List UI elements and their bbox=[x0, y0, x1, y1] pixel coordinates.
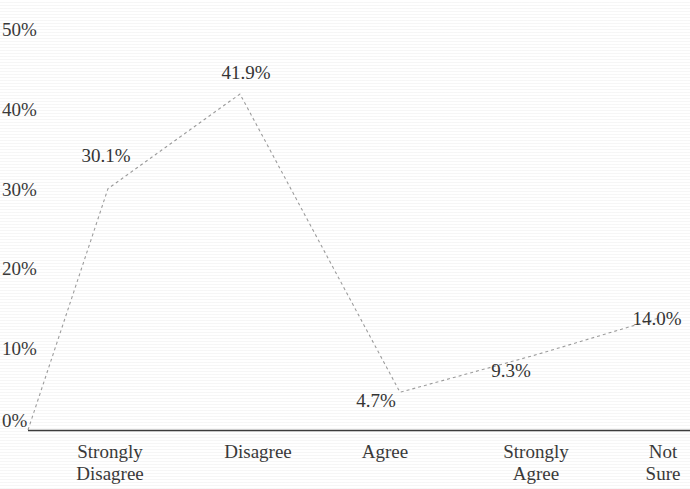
x-axis-tick-label-strongly-agree: Strongly Agree bbox=[461, 441, 611, 485]
x-axis-tick-label-strongly-disagree: Strongly Disagree bbox=[35, 441, 185, 485]
data-point-label: 9.3% bbox=[491, 361, 531, 380]
x-axis-tick-label-agree: Agree bbox=[320, 441, 450, 463]
plot-area bbox=[0, 0, 690, 489]
x-axis-tick-label-disagree: Disagree bbox=[183, 441, 333, 463]
line-chart: 50% 40% 30% 20% 10% 0% 30.1% 41.9% 4.7% … bbox=[0, 0, 690, 489]
data-point-label: 41.9% bbox=[221, 63, 270, 82]
data-point-label: 4.7% bbox=[356, 391, 396, 410]
x-axis-tick-label-not-sure: Not Sure bbox=[618, 441, 690, 485]
data-point-label: 30.1% bbox=[81, 146, 130, 165]
data-point-label: 14.0% bbox=[632, 309, 681, 328]
